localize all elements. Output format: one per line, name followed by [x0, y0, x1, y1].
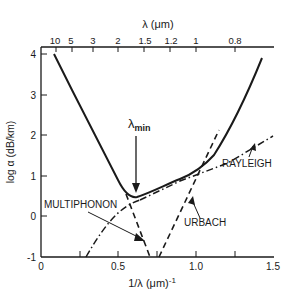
- top-tick-label: 5: [68, 35, 73, 46]
- y-tick-label: 3: [30, 90, 36, 101]
- attenuation-chart: 4 3 2 1 0 -1 0 0.5 1.0 1.5 10 5 3 2 1.5 …: [0, 0, 298, 305]
- y-tick-labels: 4 3 2 1 0 -1: [27, 49, 36, 263]
- top-tick-label: 1: [193, 35, 198, 46]
- x-tick-label: 0: [38, 261, 44, 272]
- top-tick-label: 1.2: [164, 35, 177, 46]
- rayleigh-label: RAYLEIGH: [222, 158, 272, 169]
- lambda-min-label: λmin: [128, 116, 151, 133]
- y-tick-label: 0: [30, 211, 36, 222]
- axes: [41, 47, 274, 257]
- top-axis-title: λ (μm): [142, 18, 173, 30]
- urbach-label: URBACH: [184, 217, 226, 228]
- x-ticks: [80, 251, 235, 257]
- top-tick-label: 0.8: [228, 35, 241, 46]
- x-tick-labels: 0 0.5 1.0 1.5: [38, 261, 280, 272]
- top-tick-labels: 10 5 3 2 1.5 1.2 1 0.8: [50, 35, 242, 46]
- lambda-min-arrow: [132, 136, 140, 193]
- x-tick-label: 1.5: [266, 261, 280, 272]
- multiphonon-arrow: [88, 212, 145, 241]
- lambda-min-subscript: min: [135, 123, 151, 133]
- x-tick-label: 0.5: [111, 261, 125, 272]
- x-axis-title-sup: -1: [169, 276, 177, 285]
- y-tick-label: -1: [27, 252, 36, 263]
- x-tick-label: 1.0: [189, 261, 203, 272]
- top-ticks: [56, 47, 235, 52]
- y-tick-label: 4: [30, 49, 36, 60]
- y-ticks: [41, 54, 47, 216]
- x-axis-title: 1/λ (μm)-1: [128, 276, 176, 289]
- y-tick-label: 1: [30, 171, 36, 182]
- multiphonon-line: [126, 194, 150, 257]
- top-tick-label: 1.5: [138, 35, 151, 46]
- top-tick-label: 2: [115, 35, 120, 46]
- total-loss-curve: [54, 54, 262, 197]
- urbach-arrow: [188, 196, 200, 218]
- rayleigh-line: [86, 136, 273, 257]
- y-tick-label: 2: [30, 130, 36, 141]
- top-tick-label: 10: [50, 35, 61, 46]
- multiphonon-label: MULTIPHONON: [44, 199, 117, 210]
- top-tick-label: 3: [90, 35, 95, 46]
- y-axis-title: log α (dB/km): [4, 121, 16, 184]
- urbach-line: [159, 130, 219, 257]
- x-axis-title-text: 1/λ (μm): [128, 277, 169, 289]
